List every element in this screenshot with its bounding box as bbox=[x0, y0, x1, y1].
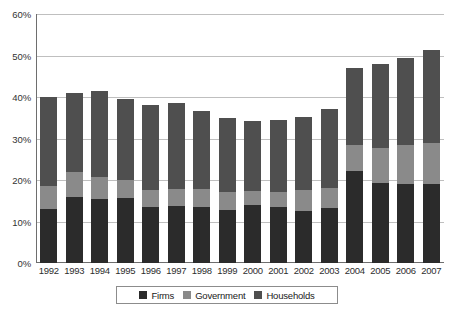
bar-stack bbox=[270, 120, 287, 263]
bar-segment-government[interactable] bbox=[295, 190, 312, 211]
x-tick-label: 2006 bbox=[393, 265, 419, 276]
x-tick-label: 1998 bbox=[189, 265, 215, 276]
bar-group[interactable] bbox=[372, 14, 389, 263]
x-tick-label: 1999 bbox=[215, 265, 241, 276]
x-tick-label: 1994 bbox=[87, 265, 113, 276]
bar-segment-firms[interactable] bbox=[168, 206, 185, 263]
bar-segment-firms[interactable] bbox=[66, 197, 83, 263]
bar-segment-households[interactable] bbox=[270, 120, 287, 192]
bar-segment-government[interactable] bbox=[219, 192, 236, 210]
bar-segment-government[interactable] bbox=[244, 191, 261, 205]
bar-stack bbox=[66, 93, 83, 263]
legend-item-government[interactable]: Government bbox=[183, 290, 245, 301]
bar-segment-government[interactable] bbox=[372, 148, 389, 184]
legend-label: Households bbox=[266, 290, 314, 301]
bar-segment-households[interactable] bbox=[193, 111, 210, 189]
bar-stack bbox=[244, 121, 261, 263]
bar-segment-government[interactable] bbox=[142, 190, 159, 206]
bar-group[interactable] bbox=[321, 14, 338, 263]
x-tick-label: 1996 bbox=[138, 265, 164, 276]
bar-group[interactable] bbox=[40, 14, 57, 263]
bar-segment-households[interactable] bbox=[142, 105, 159, 190]
x-tick-label: 1992 bbox=[36, 265, 62, 276]
bar-group[interactable] bbox=[66, 14, 83, 263]
bar-segment-households[interactable] bbox=[168, 103, 185, 188]
bar-segment-households[interactable] bbox=[372, 64, 389, 148]
bar-segment-firms[interactable] bbox=[91, 199, 108, 263]
y-tick-label: 10% bbox=[0, 217, 31, 228]
bar-segment-firms[interactable] bbox=[117, 198, 134, 263]
bar-segment-firms[interactable] bbox=[346, 171, 363, 263]
bar-stack bbox=[321, 109, 338, 263]
bar-segment-government[interactable] bbox=[168, 189, 185, 206]
bar-segment-firms[interactable] bbox=[40, 209, 57, 263]
bar-segment-households[interactable] bbox=[40, 97, 57, 186]
bar-stack bbox=[193, 111, 210, 263]
bar-group[interactable] bbox=[397, 14, 414, 263]
bar-segment-government[interactable] bbox=[270, 192, 287, 208]
x-tick-label: 2000 bbox=[240, 265, 266, 276]
bar-stack bbox=[40, 97, 57, 263]
bar-segment-government[interactable] bbox=[423, 143, 440, 185]
bar-stack bbox=[423, 50, 440, 263]
bar-segment-firms[interactable] bbox=[193, 207, 210, 263]
bar-segment-firms[interactable] bbox=[372, 183, 389, 263]
y-tick-label: 0% bbox=[0, 258, 31, 269]
bar-segment-firms[interactable] bbox=[321, 208, 338, 263]
bar-segment-households[interactable] bbox=[244, 121, 261, 192]
bar-group[interactable] bbox=[142, 14, 159, 263]
bar-stack bbox=[295, 117, 312, 263]
bar-segment-households[interactable] bbox=[346, 68, 363, 145]
x-tick-label: 2002 bbox=[291, 265, 317, 276]
bar-segment-government[interactable] bbox=[346, 145, 363, 171]
bar-segment-households[interactable] bbox=[66, 93, 83, 172]
bar-segment-households[interactable] bbox=[397, 58, 414, 145]
y-tick-label: 20% bbox=[0, 175, 31, 186]
bar-stack bbox=[117, 99, 134, 263]
stacked-bar-chart: 60% 50% 40% 30% 20% 10% 0% 1992199319941… bbox=[0, 0, 453, 314]
y-tick-label: 30% bbox=[0, 134, 31, 145]
x-tick-label: 2001 bbox=[266, 265, 292, 276]
bar-segment-households[interactable] bbox=[219, 118, 236, 192]
bar-segment-firms[interactable] bbox=[397, 184, 414, 263]
bar-group[interactable] bbox=[423, 14, 440, 263]
bar-segment-firms[interactable] bbox=[423, 184, 440, 263]
legend-swatch-icon bbox=[139, 291, 147, 299]
bar-segment-firms[interactable] bbox=[295, 211, 312, 263]
bar-stack bbox=[397, 58, 414, 263]
bar-segment-firms[interactable] bbox=[142, 207, 159, 263]
bar-stack bbox=[142, 105, 159, 263]
bar-group[interactable] bbox=[244, 14, 261, 263]
bar-segment-government[interactable] bbox=[40, 186, 57, 209]
x-tick-label: 1995 bbox=[113, 265, 139, 276]
bar-segment-households[interactable] bbox=[321, 109, 338, 189]
bar-stack bbox=[91, 91, 108, 263]
bar-segment-government[interactable] bbox=[397, 145, 414, 184]
bar-group[interactable] bbox=[295, 14, 312, 263]
bar-segment-firms[interactable] bbox=[270, 207, 287, 263]
bar-segment-government[interactable] bbox=[321, 188, 338, 208]
bar-segment-government[interactable] bbox=[193, 189, 210, 207]
bar-stack bbox=[219, 118, 236, 263]
bar-group[interactable] bbox=[270, 14, 287, 263]
bar-group[interactable] bbox=[117, 14, 134, 263]
bar-segment-firms[interactable] bbox=[244, 205, 261, 263]
bar-stack bbox=[168, 103, 185, 263]
legend-item-firms[interactable]: Firms bbox=[139, 290, 174, 301]
bar-segment-households[interactable] bbox=[423, 50, 440, 143]
bar-segment-households[interactable] bbox=[117, 99, 134, 180]
bar-group[interactable] bbox=[346, 14, 363, 263]
bar-segment-government[interactable] bbox=[66, 172, 83, 198]
bar-segment-firms[interactable] bbox=[219, 210, 236, 263]
bar-segment-households[interactable] bbox=[91, 91, 108, 176]
bar-segment-households[interactable] bbox=[295, 117, 312, 190]
bar-group[interactable] bbox=[219, 14, 236, 263]
x-tick-label: 1993 bbox=[62, 265, 88, 276]
bar-group[interactable] bbox=[168, 14, 185, 263]
bar-segment-government[interactable] bbox=[91, 177, 108, 199]
legend-swatch-icon bbox=[183, 291, 191, 299]
bar-group[interactable] bbox=[193, 14, 210, 263]
bar-group[interactable] bbox=[91, 14, 108, 263]
bar-segment-government[interactable] bbox=[117, 180, 134, 198]
legend-item-households[interactable]: Households bbox=[254, 290, 314, 301]
